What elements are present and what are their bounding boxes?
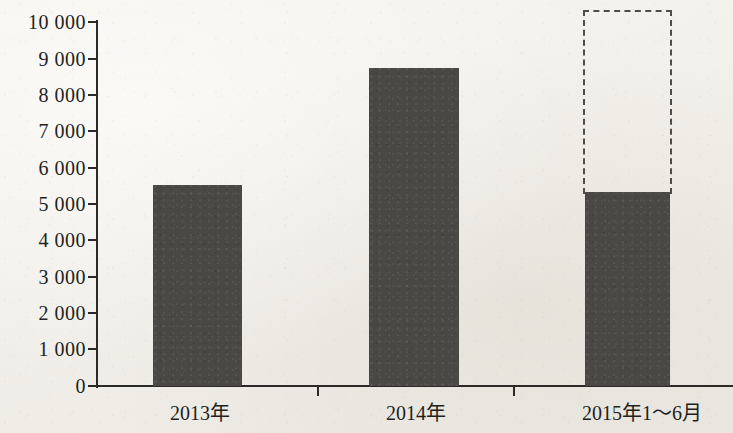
x-label-2013: 2013年 xyxy=(110,400,290,426)
y-tick-label: 7 000 xyxy=(2,121,86,141)
y-axis-tick xyxy=(88,21,97,23)
y-axis-tick-labels: 10 000 9 000 8 000 7 000 6 000 5 000 4 0… xyxy=(0,0,86,433)
bar-chart: 10 000 9 000 8 000 7 000 6 000 5 000 4 0… xyxy=(0,0,733,433)
projection-outline-2015 xyxy=(583,10,672,194)
x-axis-tick xyxy=(317,387,319,396)
y-axis-tick xyxy=(88,58,97,60)
bar-2014 xyxy=(369,68,459,386)
y-axis-tick xyxy=(88,130,97,132)
plot-area xyxy=(98,0,733,386)
x-label-2014: 2014年 xyxy=(326,400,506,426)
y-axis-tick xyxy=(88,239,97,241)
y-axis-tick xyxy=(88,348,97,350)
x-axis-category-labels: 2013年 2014年 2015年1〜6月 xyxy=(0,400,733,433)
y-tick-label: 8 000 xyxy=(2,85,86,105)
y-axis-tick xyxy=(88,203,97,205)
y-axis-tick xyxy=(88,94,97,96)
y-tick-label: 3 000 xyxy=(2,267,86,287)
y-tick-label: 1 000 xyxy=(2,339,86,359)
y-axis-tick xyxy=(88,312,97,314)
y-tick-label: 2 000 xyxy=(2,303,86,323)
y-axis-tick xyxy=(88,385,97,387)
y-tick-label: 10 000 xyxy=(2,12,86,32)
y-tick-label: 5 000 xyxy=(2,194,86,214)
x-label-2015-h1: 2015年1〜6月 xyxy=(551,400,733,426)
y-tick-label: 0 xyxy=(2,376,86,396)
bar-2015-h1 xyxy=(585,192,670,386)
y-axis-tick xyxy=(88,167,97,169)
y-tick-label: 4 000 xyxy=(2,230,86,250)
y-tick-label: 9 000 xyxy=(2,49,86,69)
bar-2013 xyxy=(153,185,242,386)
y-tick-label: 6 000 xyxy=(2,158,86,178)
x-axis-tick xyxy=(513,387,515,396)
y-axis-tick xyxy=(88,276,97,278)
